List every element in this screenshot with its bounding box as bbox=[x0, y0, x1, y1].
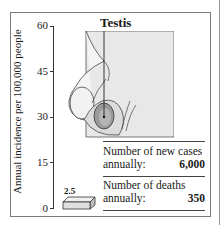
y-tick-15 bbox=[50, 162, 54, 163]
y-tick-label-0: 0 bbox=[26, 203, 48, 214]
deaths-value: 350 bbox=[188, 192, 205, 205]
new-cases-label-2: annually: bbox=[103, 158, 146, 171]
y-tick-label-15: 15 bbox=[26, 157, 48, 168]
divider-middle bbox=[103, 176, 205, 177]
deaths-label: Number of deaths bbox=[103, 179, 205, 192]
chart-title: Testis bbox=[100, 15, 131, 31]
y-tick-label-30: 30 bbox=[26, 111, 48, 122]
y-tick-0 bbox=[50, 208, 54, 209]
y-tick-label-60: 60 bbox=[26, 20, 48, 31]
new-cases-value: 6,000 bbox=[179, 158, 205, 171]
page-edge-rule bbox=[219, 0, 220, 225]
divider-top bbox=[103, 141, 205, 142]
divider-bottom bbox=[103, 210, 205, 211]
incidence-bar bbox=[62, 196, 96, 210]
new-cases-label: Number of new cases bbox=[103, 145, 205, 158]
y-tick-45 bbox=[50, 71, 54, 72]
bar-data-label: 2.5 bbox=[64, 186, 75, 196]
new-cases-stat: Number of new cases annually: 6,000 bbox=[103, 145, 205, 171]
deaths-label-2: annually: bbox=[103, 192, 146, 205]
deaths-stat: Number of deaths annually: 350 bbox=[103, 179, 205, 205]
y-axis-label: Annual incidence per 100,000 people bbox=[11, 34, 23, 194]
y-tick-30 bbox=[50, 117, 54, 118]
testis-anatomy-illustration bbox=[64, 31, 174, 139]
y-tick-label-45: 45 bbox=[26, 66, 48, 77]
y-tick-60 bbox=[50, 26, 54, 27]
